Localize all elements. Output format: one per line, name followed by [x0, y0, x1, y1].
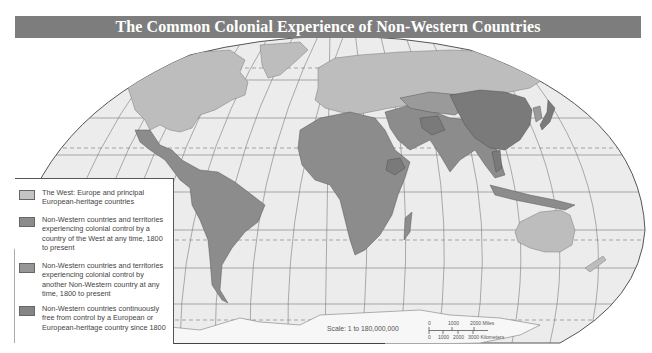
- legend-swatch-west: [19, 190, 35, 200]
- map-figure: The Common Colonial Experience of Non-We…: [0, 0, 652, 353]
- legend-swatch-colonized-by-west: [19, 217, 35, 227]
- legend-label: Non-Western countries and territories ex…: [42, 261, 170, 298]
- scale-mile-tick: 1000: [448, 320, 459, 326]
- legend-label: Non-Western countries and territories ex…: [42, 215, 170, 252]
- legend-item-colonized-by-non-west: Non-Western countries and territories ex…: [19, 261, 170, 298]
- legend-label: Non-Western countries continuously free …: [42, 304, 170, 332]
- scale-ratio: Scale: 1 to 180,000,000: [327, 325, 399, 332]
- legend-swatch-never-colonized: [19, 306, 35, 316]
- legend-item-colonized-by-west: Non-Western countries and territories ex…: [19, 215, 170, 252]
- scale-km-tick: 0: [428, 334, 431, 340]
- scale-bar-line: [428, 327, 498, 334]
- map-title: The Common Colonial Experience of Non-We…: [15, 16, 641, 38]
- scale-km-tick: 1000: [438, 334, 449, 340]
- legend-swatch-colonized-by-non-west: [19, 263, 35, 273]
- map-legend: The West: Europe and principal European-…: [15, 178, 174, 344]
- scale-km-tick: 3000 Kilometers: [468, 334, 504, 340]
- scale-km-tick: 2000: [453, 334, 464, 340]
- legend-item-never-colonized: Non-Western countries continuously free …: [19, 304, 170, 332]
- scale-bar: 0 1000 2000 Miles 0 1000 2000 3000 Kilom…: [428, 320, 508, 342]
- scale-mile-tick: 2000 Miles: [470, 320, 494, 326]
- scale-mile-tick: 0: [428, 320, 431, 326]
- legend-label: The West: Europe and principal European-…: [42, 188, 170, 207]
- legend-item-west: The West: Europe and principal European-…: [19, 188, 170, 207]
